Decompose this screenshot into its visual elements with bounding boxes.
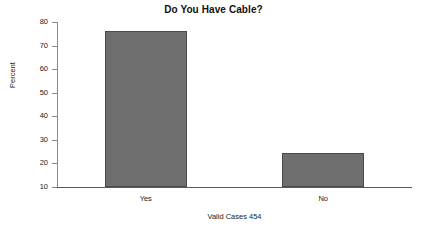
y-tick-label: 50: [8, 89, 48, 97]
y-tick-mark: [52, 22, 57, 23]
y-tick-mark: [52, 46, 57, 47]
chart-screenshot: Do You Have Cable? Percent 1020304050607…: [0, 0, 427, 233]
y-tick-mark: [52, 163, 57, 164]
bar-no: [282, 153, 364, 187]
x-label-no: No: [235, 194, 413, 203]
y-tick-mark: [52, 140, 57, 141]
x-label-yes: Yes: [57, 194, 235, 203]
y-tick-label: 20: [8, 159, 48, 167]
y-tick-mark: [52, 69, 57, 70]
y-tick-label: 40: [8, 112, 48, 120]
bar-yes: [105, 31, 187, 187]
y-tick-mark: [52, 93, 57, 94]
y-tick-label: 60: [8, 65, 48, 73]
y-tick-label: 70: [8, 42, 48, 50]
y-tick-mark: [52, 187, 57, 188]
y-tick-mark: [52, 116, 57, 117]
valid-cases-note: Valid Cases 454: [57, 212, 412, 221]
y-axis-line: [57, 22, 58, 188]
plot-area: Percent 1020304050607080 YesNo: [0, 0, 427, 233]
y-tick-label: 10: [8, 183, 48, 191]
y-tick-label: 30: [8, 136, 48, 144]
y-tick-label: 80: [8, 18, 48, 26]
x-axis-line: [57, 187, 412, 188]
